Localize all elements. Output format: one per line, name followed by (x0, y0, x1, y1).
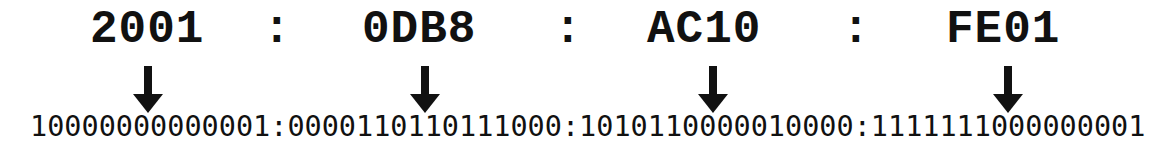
binary-group-4: 1111111000000001 (871, 110, 1146, 141)
binary-address: 10000000000001:0000110110111000:10101100… (30, 114, 1145, 140)
hex-separator-2: : (554, 4, 582, 56)
binary-group-3: 1010110000010000 (579, 110, 854, 141)
arrow-down-icon (133, 66, 163, 114)
binary-group-1: 10000000000001 (30, 110, 270, 141)
binary-group-2: 0000110110111000 (287, 110, 562, 141)
hex-group-2: 0DB8 (362, 4, 476, 56)
binary-separator-1: : (270, 110, 287, 141)
hex-separator-1: : (263, 4, 291, 56)
binary-separator-2: : (562, 110, 579, 141)
hex-separator-3: : (842, 4, 870, 56)
hex-group-3: AC10 (647, 4, 761, 56)
arrow-down-icon (698, 66, 728, 114)
arrow-down-icon (993, 66, 1023, 114)
hex-group-4: FE01 (946, 4, 1060, 56)
hex-group-1: 2001 (90, 4, 204, 56)
binary-separator-3: : (854, 110, 871, 141)
arrow-down-icon (410, 66, 440, 114)
